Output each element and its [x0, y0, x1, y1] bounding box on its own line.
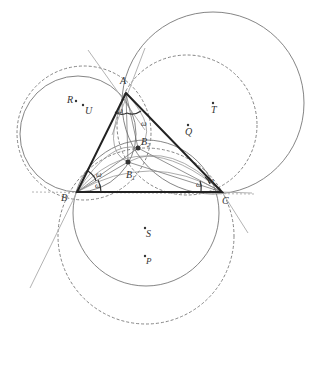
label-C: C	[222, 195, 229, 206]
label-P: P	[145, 256, 152, 266]
omega-A-left: ω	[117, 106, 123, 115]
label-A: A	[119, 75, 127, 86]
brocard-points-figure: A B C B1 B2 R U Q T S P ω ω ω ω ω ω	[0, 0, 313, 367]
label-U: U	[85, 105, 93, 116]
geometry-diagram: A B C B1 B2 R U Q T S P ω ω ω ω ω ω	[0, 0, 313, 367]
omega-A-right: ω	[141, 119, 147, 128]
brocard-point-B1	[126, 160, 131, 165]
label-Q: Q	[185, 126, 193, 137]
label-R: R	[66, 94, 73, 105]
omega-B-lower: ω	[95, 181, 101, 190]
label-T: T	[211, 104, 218, 115]
label-B2: B2	[141, 136, 150, 148]
label-S: S	[146, 228, 151, 239]
omega-C-right: ω	[208, 176, 214, 185]
brocard-point-B2	[136, 146, 141, 151]
omega-B-upper: ω	[96, 170, 102, 179]
omega-C-left: ω	[196, 180, 202, 189]
label-B1: B1	[126, 169, 135, 181]
label-B: B	[61, 192, 67, 203]
